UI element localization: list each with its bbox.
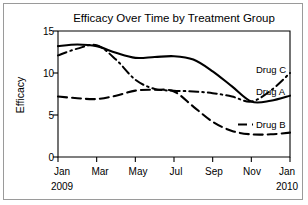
page-title: Efficacy Over Time by Treatment Group xyxy=(73,12,275,24)
x-tick-label-jan-2010: Jan xyxy=(279,166,295,177)
x-tick-label-jan-2009: Jan xyxy=(54,166,70,177)
x-tick-label-nov: Nov xyxy=(243,166,261,177)
legend-label-drug-c: Drug C xyxy=(256,64,286,75)
y-axis-label: Efficacy xyxy=(14,76,26,113)
y-tick-label-10: 10 xyxy=(43,68,55,79)
legend-label-drug-a: Drug A xyxy=(256,86,286,97)
x-tick-label-year-2010: 2010 xyxy=(276,181,299,192)
x-tick-label-mar: Mar xyxy=(91,166,109,177)
x-tick-label-may: May xyxy=(129,166,148,177)
x-tick-labels: Jan 2009 Mar May Jul Sep Nov Jan 2010 xyxy=(51,166,299,192)
x-tick-label-jul: Jul xyxy=(170,166,183,177)
legend-label-drug-b: Drug B xyxy=(256,119,286,130)
x-tick-label-sep: Sep xyxy=(205,166,223,177)
line-chart: Efficacy Over Time by Treatment Group Ef… xyxy=(0,0,308,205)
y-tick-label-15: 15 xyxy=(43,26,55,37)
x-tick-marks xyxy=(58,157,290,162)
y-tick-marks xyxy=(53,31,58,157)
x-tick-label-year-2009: 2009 xyxy=(51,181,74,192)
chart-figure: Efficacy Over Time by Treatment Group Ef… xyxy=(0,0,308,205)
